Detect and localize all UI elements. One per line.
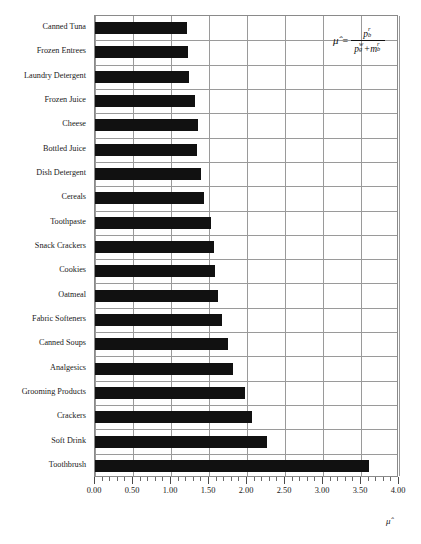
x-axis-minor-tick <box>231 477 232 481</box>
y-axis-category-label: Bottled Juice <box>43 144 86 153</box>
x-axis-minor-tick <box>375 477 376 481</box>
bar <box>95 436 267 448</box>
y-axis-category-label: Soft Drink <box>51 436 86 445</box>
x-axis-minor-tick <box>162 477 163 481</box>
x-axis-minor-tick <box>345 477 346 481</box>
x-axis-tick-label: 1.00 <box>163 486 178 496</box>
bar <box>95 119 198 131</box>
x-axis-minor-tick <box>299 477 300 481</box>
plot-area <box>94 15 398 477</box>
x-axis-tick-label: 0.00 <box>87 486 102 496</box>
x-axis-major-tick <box>284 477 285 484</box>
y-axis-category-labels: Canned TunaFrozen EntreesLaundry Deterge… <box>0 15 90 477</box>
x-axis-minor-tick <box>352 477 353 481</box>
x-axis-minor-tick <box>216 477 217 481</box>
x-axis-minor-tick <box>261 477 262 481</box>
bar <box>95 46 188 58</box>
y-axis-category-label: Oatmeal <box>58 290 86 299</box>
x-axis-major-tick <box>208 477 209 484</box>
x-axis-major-tick <box>322 477 323 484</box>
y-axis-category-label: Crackers <box>57 411 86 420</box>
x-axis-tick-label: 1.50 <box>201 486 216 496</box>
bar <box>95 22 187 34</box>
y-axis-category-label: Canned Tuna <box>43 22 86 31</box>
x-axis-major-tick <box>398 477 399 484</box>
x-axis-major-tick <box>170 477 171 484</box>
bars-layer <box>95 16 397 476</box>
x-axis-minor-tick <box>193 477 194 481</box>
bar <box>95 338 228 350</box>
x-axis-minor-tick <box>238 477 239 481</box>
x-axis-tick-label: 2.50 <box>277 486 292 496</box>
x-axis-minor-tick <box>307 477 308 481</box>
x-axis-minor-tick <box>140 477 141 481</box>
x-axis: 0.000.501.001.502.002.503.003.504.00 <box>94 477 398 507</box>
bar <box>95 144 197 156</box>
x-axis-minor-tick <box>337 477 338 481</box>
x-axis-minor-tick <box>269 477 270 481</box>
y-axis-category-label: Snack Crackers <box>35 241 86 250</box>
bar <box>95 363 233 375</box>
x-axis-tick-label: 4.00 <box>391 486 406 496</box>
x-axis-tick-label: 0.50 <box>125 486 140 496</box>
x-axis-minor-tick <box>155 477 156 481</box>
x-axis-minor-tick <box>276 477 277 481</box>
x-axis-title: μ̂ <box>386 516 391 526</box>
y-axis-category-label: Canned Soups <box>39 338 86 347</box>
x-axis-minor-tick <box>178 477 179 481</box>
bar <box>95 217 211 229</box>
bar <box>95 168 201 180</box>
x-axis-major-tick <box>94 477 95 484</box>
x-axis-minor-tick <box>383 477 384 481</box>
bar <box>95 314 222 326</box>
x-axis-minor-tick <box>368 477 369 481</box>
x-axis-minor-tick <box>117 477 118 481</box>
y-axis-category-label: Cereals <box>61 192 86 201</box>
x-axis-minor-tick <box>330 477 331 481</box>
x-axis-minor-tick <box>147 477 148 481</box>
x-axis-tick-label: 3.50 <box>353 486 368 496</box>
x-axis-minor-tick <box>390 477 391 481</box>
y-axis-category-label: Laundry Detergent <box>24 71 86 80</box>
y-axis-category-label: Cookies <box>59 265 86 274</box>
x-axis-tick-label: 2.00 <box>239 486 254 496</box>
bar <box>95 95 195 107</box>
x-axis-major-tick <box>360 477 361 484</box>
x-axis-minor-tick <box>254 477 255 481</box>
bar <box>95 241 214 253</box>
y-axis-category-label: Frozen Juice <box>44 95 86 104</box>
bar <box>95 192 204 204</box>
x-axis-minor-tick <box>223 477 224 481</box>
y-axis-category-label: Toothbrush <box>49 460 86 469</box>
x-axis-minor-tick <box>200 477 201 481</box>
y-axis-category-label: Dish Detergent <box>36 168 86 177</box>
bar <box>95 460 369 472</box>
x-axis-minor-tick <box>124 477 125 481</box>
bar <box>95 411 252 423</box>
y-axis-category-label: Grooming Products <box>22 387 86 396</box>
bar <box>95 265 215 277</box>
y-axis-category-label: Fabric Softeners <box>32 314 86 323</box>
vertical-gridline <box>399 16 400 476</box>
x-axis-minor-tick <box>109 477 110 481</box>
x-axis-major-tick <box>246 477 247 484</box>
bar <box>95 290 218 302</box>
x-axis-minor-tick <box>102 477 103 481</box>
y-axis-category-label: Analgesics <box>50 363 86 372</box>
bar <box>95 71 189 83</box>
y-axis-category-label: Toothpaste <box>50 217 86 226</box>
x-axis-tick-label: 3.00 <box>315 486 330 496</box>
x-axis-major-tick <box>132 477 133 484</box>
bar <box>95 387 245 399</box>
y-axis-category-label: Cheese <box>62 119 86 128</box>
bar-chart: Canned TunaFrozen EntreesLaundry Deterge… <box>0 0 421 544</box>
x-axis-minor-tick <box>292 477 293 481</box>
y-axis-category-label: Frozen Entrees <box>37 46 86 55</box>
x-axis-minor-tick <box>185 477 186 481</box>
x-axis-minor-tick <box>314 477 315 481</box>
